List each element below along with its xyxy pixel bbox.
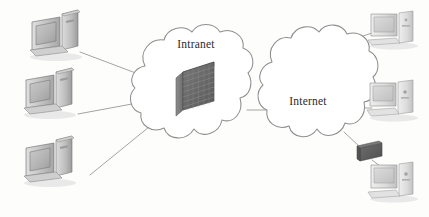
- link-internet-router: [344, 132, 360, 147]
- right-pc-3: [368, 162, 418, 203]
- intranet-label: Intranet: [177, 38, 215, 50]
- internet-cloud-shape: [258, 25, 378, 137]
- firewall-side-face: [176, 72, 183, 116]
- right-pc-2-power-led: [403, 90, 407, 94]
- left-pc-1: [30, 10, 82, 61]
- right-pc-1-tower: [399, 11, 413, 43]
- right-pc-1-drive-bay: [402, 25, 410, 27]
- right-pc-3-screen: [374, 168, 394, 183]
- right-pc-3-drive-bay: [402, 179, 410, 181]
- router-box-icon: [357, 141, 382, 161]
- left-pc-3: [24, 136, 76, 187]
- internet-cloud: Internet: [258, 25, 378, 137]
- router-side-face: [357, 146, 360, 161]
- right-pc-2-screen: [373, 86, 393, 101]
- right-pc-2: [367, 80, 418, 122]
- right-pc-2-drive-bay: [401, 97, 409, 99]
- network-diagram-figure: Intranet Internet: [0, 0, 429, 217]
- right-pc-1-screen: [374, 17, 394, 32]
- internet-label: Internet: [289, 95, 327, 107]
- right-pc-3-power-led: [404, 172, 408, 176]
- diagram-canvas: Intranet Internet: [0, 0, 429, 217]
- right-pc-1-power-led: [405, 19, 408, 22]
- left-pc-3-screen: [30, 148, 50, 171]
- left-pc-2-screen: [30, 80, 50, 103]
- left-pc-1-screen: [36, 22, 56, 45]
- left-pc-2: [24, 68, 76, 119]
- right-pc-1: [368, 11, 418, 50]
